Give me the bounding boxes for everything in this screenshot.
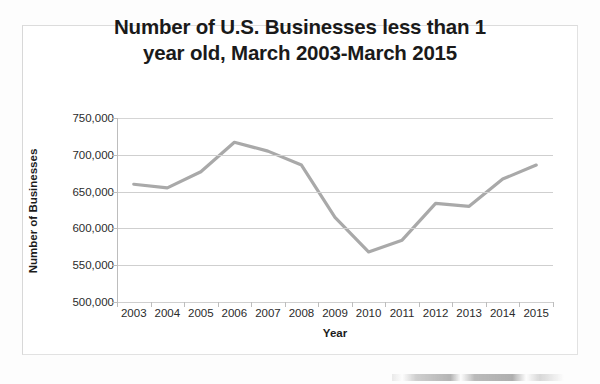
- gridline-750000: [117, 118, 553, 119]
- x-tick-mark-3: [218, 302, 219, 307]
- x-tick-mark-0: [117, 302, 118, 307]
- gridline-650000: [117, 192, 553, 193]
- x-tick-mark-10: [452, 302, 453, 307]
- x-tick-mark-6: [318, 302, 319, 307]
- y-tick-label-600000: 600,000: [48, 222, 114, 234]
- x-tick-mark-7: [352, 302, 353, 307]
- y-tick-label-550000: 550,000: [48, 259, 114, 271]
- y-tick-label-750000: 750,000: [48, 112, 114, 124]
- y-tick-mark-600000: [112, 228, 118, 229]
- x-tick-mark-2: [184, 302, 185, 307]
- x-tick-mark-12: [519, 302, 520, 307]
- gridline-550000: [117, 265, 553, 266]
- x-tick-mark-8: [385, 302, 386, 307]
- x-axis-tick-labels: 2003200420052006200720082009201020112012…: [117, 307, 553, 325]
- x-tick-mark-5: [285, 302, 286, 307]
- y-tick-mark-550000: [112, 265, 118, 266]
- x-tick-mark-4: [251, 302, 252, 307]
- chart-plot-wrapper: Number of Businesses 750,000700,000650,0…: [0, 0, 600, 384]
- line-series-number-of-businesses: [117, 118, 553, 302]
- x-tick-mark-end: [553, 302, 554, 307]
- x-tick-mark-11: [486, 302, 487, 307]
- y-tick-mark-700000: [112, 155, 118, 156]
- plot-area: [117, 118, 553, 302]
- y-tick-mark-650000: [112, 192, 118, 193]
- x-axis-title: Year: [117, 327, 553, 339]
- y-axis-title: Number of Businesses: [27, 131, 39, 291]
- scan-artifact-text-fragment: [392, 374, 564, 381]
- y-tick-label-700000: 700,000: [48, 149, 114, 161]
- gridline-600000: [117, 228, 553, 229]
- y-tick-label-650000: 650,000: [48, 186, 114, 198]
- y-axis-tick-labels: 750,000700,000650,000600,000550,000500,0…: [48, 0, 114, 384]
- y-tick-label-500000: 500,000: [48, 296, 114, 308]
- gridline-500000: [117, 302, 553, 303]
- x-tick-mark-1: [151, 302, 152, 307]
- x-tick-label-2015: 2015: [514, 307, 558, 319]
- gridline-700000: [117, 155, 553, 156]
- y-tick-mark-750000: [112, 118, 118, 119]
- x-tick-mark-9: [419, 302, 420, 307]
